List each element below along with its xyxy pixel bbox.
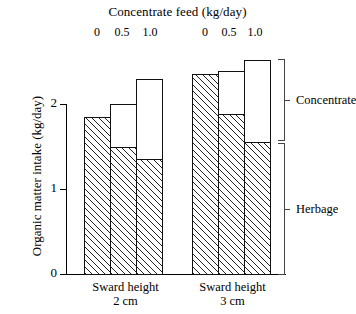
y-tick-mark-1 (60, 189, 67, 190)
bar-herbage-g1-c0 (84, 117, 111, 275)
concentrate-level-label-0-5-b: 0.5 (217, 25, 241, 40)
bar-herbage-g2-c10 (244, 142, 271, 275)
bar-herbage-g1-c05 (110, 147, 137, 275)
y-tick-mark-2 (60, 104, 67, 105)
category-label-2-line2: 3 cm (170, 294, 295, 308)
legend-label-concentrate: Concentrate (296, 93, 356, 108)
bar-herbage-g2-c05 (218, 114, 245, 275)
bar-herbage-g1-c10 (136, 159, 163, 275)
y-axis-title: Organic matter intake (kg/day) (29, 76, 45, 276)
y-tick-mark-0 (60, 274, 67, 275)
concentrate-level-label-1-0: 1.0 (138, 25, 162, 40)
legend-label-herbage: Herbage (296, 202, 338, 217)
category-label-2-line1: Sward height (170, 280, 295, 294)
bar-herbage-g2-c0 (192, 74, 219, 275)
concentrate-level-label-0: 0 (88, 25, 106, 40)
chart-top-title: Concentrate feed (kg/day) (0, 4, 355, 20)
concentrate-level-label-0-b: 0 (196, 25, 214, 40)
concentrate-level-label-0-5: 0.5 (110, 25, 134, 40)
concentrate-level-label-1-0-b: 1.0 (243, 25, 267, 40)
